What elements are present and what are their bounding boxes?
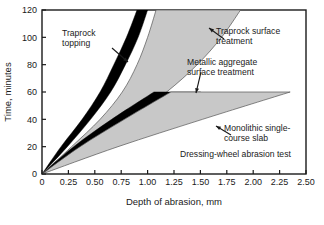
y-tick-label: 20 [27,142,37,152]
annotation-test-note: Dressing-wheel abrasion test [180,149,291,159]
annotation-text: Traprock [62,28,96,38]
x-tick-label: 1.00 [139,177,157,187]
x-tick-label: 0 [39,177,44,187]
annotation-text: topping [62,38,90,48]
annotation-text: Metallic aggregate [187,57,257,67]
y-tick-label: 60 [27,87,37,97]
y-tick-label: 120 [22,5,37,15]
x-tick-label: 1.25 [165,177,183,187]
y-tick-label: 40 [27,115,37,125]
x-axis-label: Depth of abrasion, mm [126,196,222,207]
annotation-text: surface treatment [187,67,254,77]
y-axis-label: Time, minutes [2,62,13,122]
x-tick-label: 2.50 [297,177,315,187]
abrasion-chart: 00.250.500.751.001.251.501.752.002.252.5… [0,0,324,225]
x-tick-label: 0.75 [112,177,130,187]
y-tick-label: 100 [22,33,37,43]
annotation-text: Traprock surface [216,26,280,36]
annotation-text: Dressing-wheel abrasion test [180,149,291,159]
x-tick-label: 0.25 [60,177,78,187]
annotation-text: Monolithic single- [224,123,291,133]
x-tick-label: 2.25 [271,177,289,187]
x-tick-label: 0.50 [86,177,104,187]
x-tick-label: 2.00 [244,177,262,187]
y-tick-label: 0 [32,169,37,179]
y-tick-label: 80 [27,60,37,70]
x-tick-label: 1.50 [192,177,210,187]
x-tick-label: 1.75 [218,177,236,187]
